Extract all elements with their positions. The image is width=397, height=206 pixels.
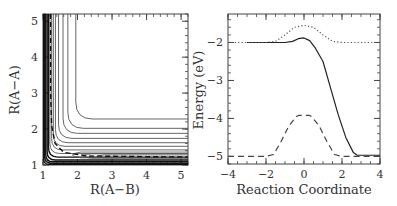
y-tick-label: 3 <box>31 87 38 100</box>
dashed-series-line <box>228 115 380 156</box>
y-tick-label: 1 <box>31 159 38 172</box>
contour-line <box>44 10 192 164</box>
contour-line <box>45 10 192 163</box>
left-x-axis-label: R(A−B) <box>90 182 140 197</box>
y-tick-label: −3 <box>207 74 223 87</box>
dotted-series-line <box>228 25 380 42</box>
x-tick-label: 2 <box>339 168 346 181</box>
contour-line <box>47 10 191 160</box>
left-y-axis-label: R(A−A) <box>7 65 22 115</box>
x-tick-label: 4 <box>377 168 384 181</box>
x-tick-label: 4 <box>143 169 150 182</box>
y-tick-label: 4 <box>31 51 38 64</box>
solid-series-line <box>247 38 380 155</box>
x-tick-label: −4 <box>220 168 236 181</box>
y-tick-label: −4 <box>207 112 223 125</box>
x-tick-label: 2 <box>74 169 81 182</box>
y-tick-label: −2 <box>207 36 223 49</box>
right-x-axis-label: Reaction Coordinate <box>236 182 372 197</box>
energy-profile-plot: −4−2024−2−3−4−5 <box>207 14 384 181</box>
y-tick-label: 5 <box>31 15 38 28</box>
y-tick-label: −5 <box>207 150 223 163</box>
x-tick-label: −2 <box>258 168 274 181</box>
x-tick-label: 3 <box>109 169 116 182</box>
y-tick-label: 2 <box>31 123 38 136</box>
reaction-path <box>51 14 188 157</box>
contour-line <box>52 10 192 149</box>
plot-frame <box>228 14 380 164</box>
x-tick-label: 1 <box>40 169 47 182</box>
contour-line <box>49 10 192 157</box>
contour-line <box>63 10 191 133</box>
contour-line <box>68 10 192 128</box>
x-tick-label: 5 <box>178 169 185 182</box>
contour-line <box>76 10 192 119</box>
figure: 1234512345 −4−2024−2−3−4−5 R(A−B) R(A−A)… <box>0 0 397 206</box>
pes-contour-plot: 1234512345 <box>31 10 191 182</box>
right-y-axis-label: Energy (eV) <box>191 51 206 130</box>
x-tick-label: 0 <box>301 168 308 181</box>
